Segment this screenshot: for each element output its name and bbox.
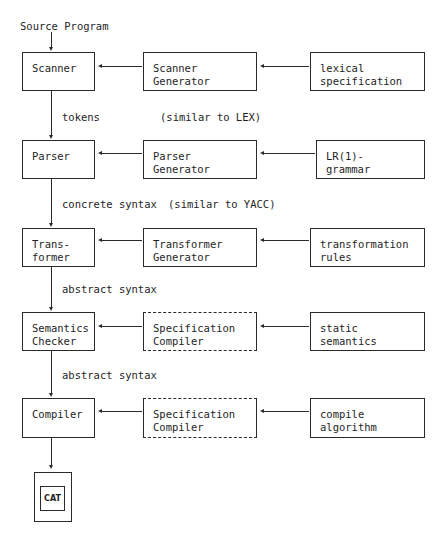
arrowhead-icon — [49, 47, 53, 51]
arrow-grammar-to-parsergen — [262, 153, 315, 154]
specification-compiler-box-2: Specification Compiler — [143, 398, 257, 438]
scanner-generator-box: Scanner Generator — [143, 52, 257, 91]
arrow-lexspec-to-scangen — [262, 66, 309, 67]
scanner-box: Scanner — [22, 52, 95, 91]
arrow-scangen-to-scanner — [100, 66, 142, 67]
note-similar-to-yacc: (similar to YACC) — [168, 198, 275, 210]
parser-box: Parser — [22, 140, 95, 179]
arrow-speccomp-to-checker — [100, 326, 142, 327]
arrowhead-icon — [98, 238, 102, 242]
arrowhead-icon — [260, 64, 264, 68]
arrowhead-icon — [49, 393, 53, 397]
source-program-label: Source Program — [20, 20, 109, 32]
transformer-box: Trans- former — [22, 228, 95, 267]
arrowhead-icon — [98, 409, 102, 413]
edge-label-abstract-syntax-2: abstract syntax — [62, 369, 157, 381]
semantics-checker-box: Semantics Checker — [22, 312, 95, 351]
arrow-scanner-to-parser — [51, 91, 52, 136]
arrow-parsergen-to-parser — [100, 153, 142, 154]
arrow-checker-to-compiler — [51, 351, 52, 394]
note-similar-to-lex: (similar to LEX) — [160, 111, 261, 123]
arrowhead-icon — [49, 465, 53, 469]
arrowhead-icon — [260, 324, 264, 328]
static-semantics-box: static semantics — [310, 312, 425, 351]
edge-label-abstract-syntax-1: abstract syntax — [62, 283, 157, 295]
transformation-rules-box: transformation rules — [310, 228, 425, 267]
arrow-algorithm-to-speccomp — [262, 411, 309, 412]
arrowhead-icon — [98, 64, 102, 68]
arrowhead-icon — [49, 135, 53, 139]
arrow-source-to-scanner — [51, 32, 52, 48]
lr1-grammar-box: LR(1)- grammar — [316, 140, 425, 179]
parser-generator-box: Parser Generator — [143, 140, 257, 179]
edge-label-concrete-syntax: concrete syntax — [62, 198, 157, 210]
transformer-generator-box: Transformer Generator — [143, 228, 257, 267]
arrow-parser-to-transformer — [51, 179, 52, 224]
arrow-rules-to-transgen — [262, 240, 309, 241]
arrow-transgen-to-transformer — [100, 240, 142, 241]
compiler-box: Compiler — [22, 398, 95, 438]
arrow-speccomp-to-compiler — [100, 411, 142, 412]
arrow-static-to-speccomp — [262, 326, 309, 327]
arrowhead-icon — [49, 307, 53, 311]
edge-label-tokens: tokens — [62, 111, 100, 123]
arrowhead-icon — [260, 238, 264, 242]
arrowhead-icon — [260, 409, 264, 413]
arrowhead-icon — [98, 324, 102, 328]
cat-output-box: CAT — [40, 486, 65, 511]
specification-compiler-box-1: Specification Compiler — [143, 312, 257, 351]
lexical-specification-box: lexical specification — [310, 52, 425, 91]
compile-algorithm-box: compile algorithm — [310, 398, 425, 438]
arrowhead-icon — [260, 151, 264, 155]
arrowhead-icon — [49, 223, 53, 227]
arrow-compiler-to-cat — [51, 438, 52, 466]
arrow-transformer-to-checker — [51, 267, 52, 308]
arrowhead-icon — [98, 151, 102, 155]
